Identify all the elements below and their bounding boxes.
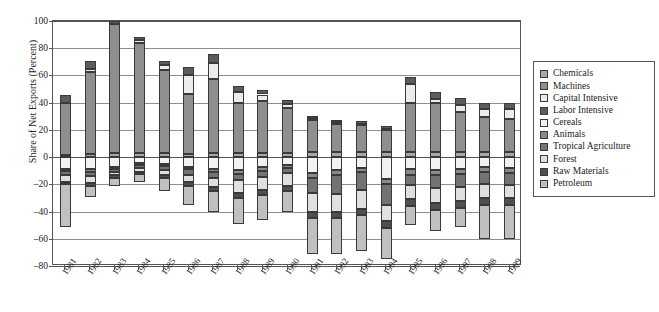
bar-segment[interactable] bbox=[282, 104, 293, 108]
bar-segment[interactable] bbox=[85, 157, 96, 169]
bar-segment[interactable] bbox=[356, 124, 367, 126]
bar-segment[interactable] bbox=[504, 198, 515, 205]
bar-segment[interactable] bbox=[430, 99, 441, 102]
bar-stack[interactable] bbox=[257, 21, 268, 264]
bar-segment[interactable] bbox=[85, 176, 96, 183]
legend-item[interactable]: Animals bbox=[540, 129, 649, 141]
bar-segment[interactable] bbox=[109, 178, 120, 187]
bar-segment[interactable] bbox=[331, 194, 342, 212]
bar-segment[interactable] bbox=[282, 108, 293, 153]
bar-segment[interactable] bbox=[208, 63, 219, 79]
bar-segment[interactable] bbox=[405, 199, 416, 206]
bar-segment[interactable] bbox=[356, 157, 367, 168]
bar-stack[interactable] bbox=[331, 21, 342, 264]
bar-segment[interactable] bbox=[134, 40, 145, 43]
bar-segment[interactable] bbox=[504, 205, 515, 239]
bar-segment[interactable] bbox=[208, 54, 219, 63]
bar-segment[interactable] bbox=[233, 86, 244, 91]
bar-segment[interactable] bbox=[60, 184, 71, 226]
bar-segment[interactable] bbox=[356, 125, 367, 152]
bar-segment[interactable] bbox=[405, 175, 416, 185]
bar-segment[interactable] bbox=[430, 175, 441, 187]
bar-segment[interactable] bbox=[183, 94, 194, 154]
bar-segment[interactable] bbox=[109, 24, 120, 153]
bar-segment[interactable] bbox=[307, 178, 318, 194]
bar-stack[interactable] bbox=[159, 21, 170, 264]
legend-item[interactable]: Forest bbox=[540, 153, 649, 165]
bar-segment[interactable] bbox=[282, 173, 293, 186]
bar-segment[interactable] bbox=[307, 120, 318, 152]
bar-segment[interactable] bbox=[233, 157, 244, 170]
bar-segment[interactable] bbox=[257, 101, 268, 153]
bar-stack[interactable] bbox=[381, 21, 392, 264]
bar-segment[interactable] bbox=[356, 190, 367, 208]
bar-segment[interactable] bbox=[60, 103, 71, 155]
bar-segment[interactable] bbox=[430, 92, 441, 99]
bar-segment[interactable] bbox=[233, 198, 244, 224]
bar-segment[interactable] bbox=[60, 175, 71, 182]
bar-segment[interactable] bbox=[381, 228, 392, 259]
bar-segment[interactable] bbox=[479, 103, 490, 109]
bar-segment[interactable] bbox=[331, 122, 342, 124]
bar-segment[interactable] bbox=[208, 157, 219, 169]
bar-stack[interactable] bbox=[60, 21, 71, 264]
bar-segment[interactable] bbox=[85, 72, 96, 154]
bar-segment[interactable] bbox=[331, 124, 342, 153]
bar-segment[interactable] bbox=[183, 186, 194, 205]
bar-segment[interactable] bbox=[257, 157, 268, 167]
bar-segment[interactable] bbox=[356, 172, 367, 190]
bar-stack[interactable] bbox=[109, 21, 120, 264]
bar-segment[interactable] bbox=[455, 105, 466, 112]
bar-segment[interactable] bbox=[208, 178, 219, 188]
bar-segment[interactable] bbox=[257, 177, 268, 191]
bar-segment[interactable] bbox=[331, 175, 342, 194]
bar-segment[interactable] bbox=[307, 116, 318, 119]
bar-segment[interactable] bbox=[405, 84, 416, 103]
bar-segment[interactable] bbox=[381, 129, 392, 131]
bar-segment[interactable] bbox=[504, 109, 515, 119]
bar-stack[interactable] bbox=[455, 21, 466, 264]
bar-segment[interactable] bbox=[183, 157, 194, 167]
bar-segment[interactable] bbox=[331, 120, 342, 123]
bar-stack[interactable] bbox=[405, 21, 416, 264]
bar-segment[interactable] bbox=[405, 157, 416, 169]
bar-segment[interactable] bbox=[60, 157, 71, 169]
bar-segment[interactable] bbox=[381, 205, 392, 221]
bar-segment[interactable] bbox=[504, 103, 515, 110]
bar-stack[interactable] bbox=[307, 21, 318, 264]
bar-segment[interactable] bbox=[405, 206, 416, 225]
bar-segment[interactable] bbox=[282, 191, 293, 212]
bar-segment[interactable] bbox=[430, 203, 441, 210]
bar-segment[interactable] bbox=[356, 215, 367, 251]
bar-segment[interactable] bbox=[183, 75, 194, 94]
bar-segment[interactable] bbox=[504, 119, 515, 152]
bar-segment[interactable] bbox=[479, 109, 490, 117]
bar-segment[interactable] bbox=[381, 157, 392, 179]
bar-segment[interactable] bbox=[504, 173, 515, 185]
legend-item[interactable]: Cereals bbox=[540, 117, 649, 129]
bar-segment[interactable] bbox=[159, 70, 170, 153]
bar-segment[interactable] bbox=[405, 103, 416, 152]
bar-stack[interactable] bbox=[183, 21, 194, 264]
bar-segment[interactable] bbox=[257, 95, 268, 102]
bar-segment[interactable] bbox=[430, 188, 441, 204]
bar-segment[interactable] bbox=[331, 157, 342, 170]
bar-segment[interactable] bbox=[233, 92, 244, 103]
bar-segment[interactable] bbox=[233, 103, 244, 153]
bar-segment[interactable] bbox=[159, 61, 170, 65]
bar-segment[interactable] bbox=[430, 210, 441, 230]
bar-segment[interactable] bbox=[356, 121, 367, 124]
bar-stack[interactable] bbox=[233, 21, 244, 264]
bar-segment[interactable] bbox=[282, 100, 293, 104]
bar-segment[interactable] bbox=[455, 112, 466, 151]
bar-segment[interactable] bbox=[183, 67, 194, 74]
bar-segment[interactable] bbox=[257, 195, 268, 220]
bar-stack[interactable] bbox=[282, 21, 293, 264]
legend-item[interactable]: Chemicals bbox=[540, 68, 649, 80]
bar-segment[interactable] bbox=[134, 37, 145, 40]
bar-segment[interactable] bbox=[455, 98, 466, 105]
bar-segment[interactable] bbox=[430, 157, 441, 170]
bar-stack[interactable] bbox=[479, 21, 490, 264]
bar-segment[interactable] bbox=[381, 184, 392, 204]
bar-segment[interactable] bbox=[208, 79, 219, 153]
